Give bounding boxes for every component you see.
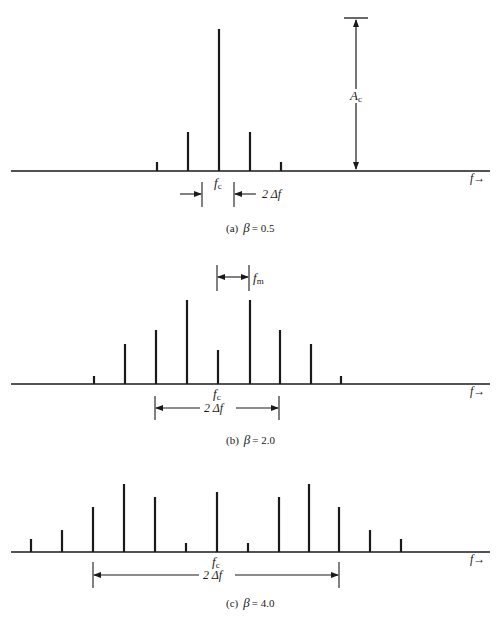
amplitude-label: Ac: [349, 88, 362, 104]
panel-b: fm fc f→ 2 Δf (b)β= 2.0: [11, 265, 490, 447]
deviation-label: 2 Δf: [203, 568, 224, 582]
spectral-lines: [157, 29, 281, 171]
amplitude-marker: Ac: [344, 18, 368, 169]
modulation-frequency-marker: fm: [217, 265, 264, 291]
panel-caption: (b)β= 2.0: [226, 432, 276, 447]
modulation-label: fm: [253, 270, 264, 286]
carrier-label: fc: [213, 386, 221, 402]
panel-c: fc f→ 2 Δf (c)β= 4.0: [11, 484, 490, 610]
deviation-marker: 2 Δf: [180, 182, 283, 207]
panel-caption: (c)β= 4.0: [226, 595, 275, 610]
spectral-lines: [94, 300, 341, 384]
deviation-label: 2 Δf: [204, 401, 225, 415]
spectral-lines: [31, 484, 401, 552]
frequency-axis-label: f→: [470, 384, 485, 398]
deviation-label: 2 Δf: [262, 187, 283, 201]
frequency-axis-label: f→: [470, 171, 485, 185]
carrier-label: fc: [214, 175, 222, 191]
frequency-axis-label: f→: [470, 552, 485, 566]
panel-a: Ac fc f→ 2 Δf (a)β= 0.5: [11, 18, 490, 235]
panel-caption: (a)β= 0.5: [226, 220, 275, 235]
fm-spectrum-figure: Ac fc f→ 2 Δf (a)β= 0.5 fm: [0, 0, 500, 617]
